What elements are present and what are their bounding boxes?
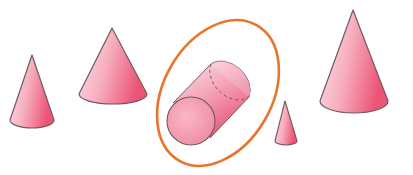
cylinder bbox=[167, 61, 250, 145]
cone-tiny bbox=[275, 101, 297, 145]
cone-medium bbox=[79, 28, 147, 104]
cone-large bbox=[320, 10, 388, 113]
cone-small bbox=[10, 55, 54, 128]
diagram-canvas: Shapes: cones and a highlighted cylinder bbox=[0, 0, 413, 175]
